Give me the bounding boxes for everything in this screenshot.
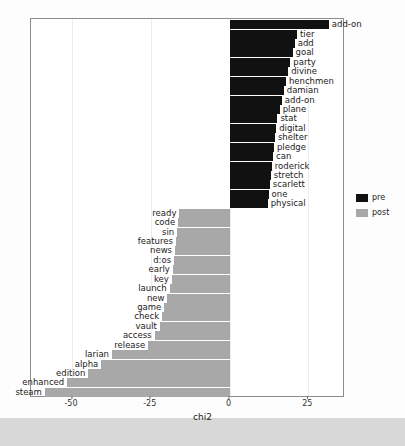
legend-item-pre: pre: [356, 193, 389, 202]
bar-row: steam: [31, 388, 343, 397]
bar-pre[interactable]: tier: [230, 30, 297, 39]
bar-post[interactable]: d:os: [174, 256, 229, 265]
bar-pre[interactable]: stretch: [230, 171, 271, 180]
bar-row: scarlett: [31, 180, 343, 189]
bar-row: tier: [31, 30, 343, 39]
bar-post[interactable]: alpha: [101, 360, 229, 369]
x-tick-label: 25: [302, 399, 312, 408]
bar-series-container: add-ontieraddgoalpartydivinehenchmendami…: [31, 19, 343, 396]
tick-mark: [307, 396, 308, 399]
figure-canvas: add-ontieraddgoalpartydivinehenchmendami…: [0, 0, 405, 418]
bar-row: access: [31, 331, 343, 340]
bar-post[interactable]: ready: [179, 209, 229, 218]
bar-category-label: release: [114, 339, 145, 351]
bar-row: enhanced: [31, 378, 343, 387]
bar-post[interactable]: access: [155, 331, 230, 340]
bar-pre[interactable]: physical: [230, 199, 268, 208]
bar-row: news: [31, 246, 343, 255]
bar-row: ready: [31, 209, 343, 218]
tick-mark: [229, 396, 230, 399]
bar-pre[interactable]: add: [230, 39, 295, 48]
x-axis-label: chi2: [0, 412, 405, 422]
bar-post[interactable]: enhanced: [67, 378, 229, 387]
bar-row: code: [31, 218, 343, 227]
bar-post[interactable]: steam: [45, 388, 230, 397]
plot-area: add-ontieraddgoalpartydivinehenchmendami…: [30, 18, 344, 397]
x-tick-label: -25: [143, 399, 156, 408]
legend-label-post: post: [372, 208, 389, 217]
bar-post[interactable]: game: [164, 303, 229, 312]
bar-pre[interactable]: scarlett: [230, 180, 270, 189]
bar-category-label: physical: [271, 197, 306, 209]
bar-row: game: [31, 303, 343, 312]
bar-row: vault: [31, 322, 343, 331]
bar-post[interactable]: early: [173, 265, 230, 274]
bar-row: edition: [31, 369, 343, 378]
bar-post[interactable]: code: [178, 218, 229, 227]
bar-row: new: [31, 294, 343, 303]
bar-post[interactable]: key: [172, 275, 230, 284]
bar-row: sin: [31, 228, 343, 237]
legend-label-pre: pre: [372, 193, 385, 202]
bar-pre[interactable]: add-on: [230, 96, 282, 105]
chart-legend: pre post: [356, 193, 389, 223]
bar-row: launch: [31, 284, 343, 293]
bar-pre[interactable]: shelter: [230, 133, 275, 142]
bar-pre[interactable]: can: [230, 152, 273, 161]
bar-category-label: steam: [15, 386, 41, 398]
bar-pre[interactable]: damian: [230, 86, 284, 95]
bar-post[interactable]: features: [176, 237, 230, 246]
bar-row: pledge: [31, 143, 343, 152]
bar-category-label: add-on: [332, 18, 362, 30]
bar-pre[interactable]: stat: [230, 114, 278, 123]
bar-pre[interactable]: henchmen: [230, 77, 286, 86]
bar-pre[interactable]: plane: [230, 105, 280, 114]
bar-pre[interactable]: divine: [230, 67, 289, 76]
bar-pre[interactable]: roderick: [230, 162, 272, 171]
legend-swatch-pre: [356, 194, 368, 202]
bar-row: release: [31, 341, 343, 350]
x-tick-label: 0: [226, 399, 231, 408]
bar-pre[interactable]: digital: [230, 124, 277, 133]
bar-post[interactable]: release: [148, 341, 229, 350]
x-tick-label: -50: [64, 399, 77, 408]
tick-mark: [71, 396, 72, 399]
bar-pre[interactable]: party: [230, 58, 291, 67]
legend-swatch-post: [356, 209, 368, 217]
bar-pre[interactable]: one: [230, 190, 269, 199]
bar-row: check: [31, 312, 343, 321]
bar-pre[interactable]: pledge: [230, 143, 274, 152]
x-axis-ticks: -50-25025: [30, 399, 344, 413]
bar-row: early: [31, 265, 343, 274]
bar-row: add-on: [31, 20, 343, 29]
bar-row: d:os: [31, 256, 343, 265]
legend-item-post: post: [356, 208, 389, 217]
tick-mark: [150, 396, 151, 399]
bar-post[interactable]: news: [175, 246, 230, 255]
bar-row: key: [31, 275, 343, 284]
bar-post[interactable]: edition: [88, 369, 229, 378]
bar-post[interactable]: larian: [112, 350, 230, 359]
bar-post[interactable]: check: [162, 312, 229, 321]
bar-post[interactable]: new: [167, 294, 229, 303]
bar-pre[interactable]: goal: [230, 48, 293, 57]
bar-row: features: [31, 237, 343, 246]
bar-post[interactable]: vault: [160, 322, 230, 331]
bar-row: physical: [31, 199, 343, 208]
bar-post[interactable]: launch: [170, 284, 230, 293]
bar-post[interactable]: sin: [177, 228, 229, 237]
